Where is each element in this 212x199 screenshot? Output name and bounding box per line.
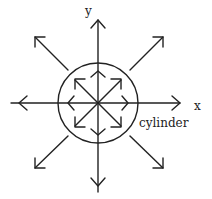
arrow-sw-inner-icon (75, 117, 85, 127)
x-axis-label: x (194, 99, 201, 113)
cylinder-label: cylinder (139, 116, 189, 130)
arrow-ne-inner-icon (111, 79, 121, 89)
arrow-nw-inner-icon (75, 79, 85, 89)
arrow-se-inner-icon (111, 117, 121, 127)
radial-flow-diagram: y x cylinder (0, 0, 212, 199)
y-axis-label: y (84, 4, 92, 18)
